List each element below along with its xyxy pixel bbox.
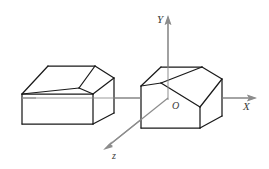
left-solid (22, 66, 114, 124)
y-axis-label: Y (157, 13, 165, 25)
z-axis-label: z (111, 150, 116, 161)
origin-label: O (172, 100, 179, 111)
x-axis-label: X (242, 100, 251, 112)
figure-root: Y X z O (0, 0, 269, 169)
diagram-canvas: Y X z O (0, 0, 269, 169)
right-solid (141, 67, 222, 128)
